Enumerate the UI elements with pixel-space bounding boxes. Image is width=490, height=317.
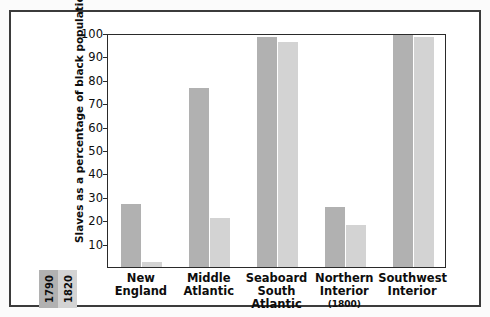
y-tick-mark <box>103 34 107 35</box>
y-tick-label: 40 <box>71 167 103 181</box>
x-category-label-line: Interior <box>378 285 446 298</box>
bar-1790-seaboard-south-atlantic <box>257 37 277 267</box>
y-tick-label: 20 <box>71 214 103 228</box>
chart-figure: Slaves as a percentage of black populati… <box>0 0 490 317</box>
y-tick-label: 100 <box>71 27 103 41</box>
chart-title <box>111 3 411 13</box>
y-tick-label: 80 <box>71 74 103 88</box>
bar-1820-seaboard-south-atlantic <box>278 42 298 267</box>
y-tick-mark <box>103 221 107 222</box>
y-axis-tick-labels: 100908070605040302010 <box>71 34 103 268</box>
y-tick-mark <box>103 81 107 82</box>
x-category-label: MiddleAtlantic <box>175 272 243 298</box>
chart-legend: 17901820 <box>39 270 77 308</box>
y-tick-mark <box>103 198 107 199</box>
y-tick-mark <box>103 57 107 58</box>
bar-1820-northern-interior <box>346 225 366 267</box>
y-tick-label: 50 <box>71 144 103 158</box>
x-category-label-line: Interior <box>310 285 378 298</box>
x-category-label-line: Atlantic <box>175 285 243 298</box>
y-tick-label: 90 <box>71 50 103 64</box>
bar-1790-northern-interior <box>325 207 345 267</box>
x-category-label: SouthwestInterior <box>378 272 446 298</box>
legend-swatch-1820: 1820 <box>58 270 77 308</box>
y-tick-mark <box>103 128 107 129</box>
y-tick-mark <box>103 104 107 105</box>
y-tick-mark <box>103 245 107 246</box>
bar-1790-middle-atlantic <box>189 88 209 267</box>
x-axis-category-labels: NewEnglandMiddleAtlanticSeaboardSouthAtl… <box>107 272 446 317</box>
bar-1820-middle-atlantic <box>210 218 230 267</box>
bars-layer <box>108 35 445 267</box>
y-tick-label: 70 <box>71 97 103 111</box>
y-tick-label: 10 <box>71 238 103 252</box>
plot-area <box>107 34 446 268</box>
x-category-label-line: England <box>107 285 175 298</box>
x-category-label-note: (1800) <box>310 298 378 311</box>
bar-1790-southwest-interior <box>393 35 413 267</box>
chart-outer-frame: Slaves as a percentage of black populati… <box>9 10 481 307</box>
x-category-label-line: Atlantic <box>243 298 311 311</box>
x-category-label: SeaboardSouthAtlantic <box>243 272 311 311</box>
x-category-label: NorthernInterior(1800) <box>310 272 378 311</box>
y-tick-label: 60 <box>71 121 103 135</box>
bar-1790-new-england <box>121 204 141 267</box>
bar-1820-southwest-interior <box>414 37 434 267</box>
bar-1820-new-england <box>142 262 162 267</box>
legend-swatch-1790: 1790 <box>39 270 58 308</box>
x-category-label: NewEngland <box>107 272 175 298</box>
y-tick-label: 30 <box>71 191 103 205</box>
y-tick-mark <box>103 174 107 175</box>
legend-label-1820: 1820 <box>62 275 73 303</box>
y-tick-mark <box>103 151 107 152</box>
legend-label-1790: 1790 <box>43 275 54 303</box>
